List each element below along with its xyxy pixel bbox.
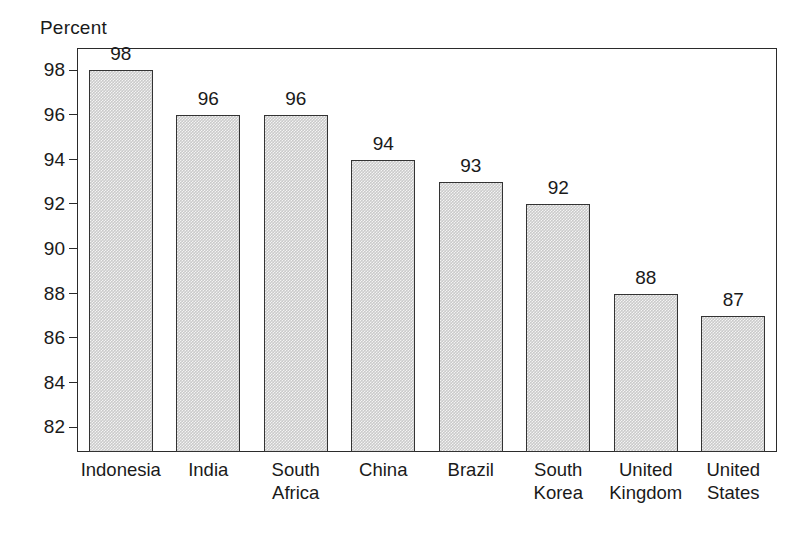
x-axis-category-line: Indonesia xyxy=(77,458,165,481)
bar-value-label: 94 xyxy=(343,134,423,153)
bar xyxy=(351,160,415,452)
bar-value-label: 98 xyxy=(81,44,161,63)
y-axis-tick-label: 94 xyxy=(21,150,65,169)
bars-container: 9896969493928887 xyxy=(77,48,777,452)
y-axis-tick-label: 96 xyxy=(21,105,65,124)
x-axis-category-line: Kingdom xyxy=(602,481,690,504)
x-axis-category-label: SouthAfrica xyxy=(252,458,340,504)
y-axis-tick-label: 98 xyxy=(21,60,65,79)
bar-value-label: 92 xyxy=(518,178,598,197)
bar-value-label: 96 xyxy=(256,89,336,108)
y-axis-tick-label: 86 xyxy=(21,328,65,347)
x-axis-category-label: UnitedStates xyxy=(690,458,778,504)
chart-axis-title: Percent xyxy=(40,17,107,39)
bar-value-label: 93 xyxy=(431,156,511,175)
x-axis-category-line: Africa xyxy=(252,481,340,504)
y-axis-tick-label: 92 xyxy=(21,194,65,213)
y-axis-tick-label: 90 xyxy=(21,239,65,258)
x-axis-category-line: United xyxy=(690,458,778,481)
x-axis-category-label: Indonesia xyxy=(77,458,165,481)
x-axis-category-label: UnitedKingdom xyxy=(602,458,690,504)
x-axis-category-line: South xyxy=(252,458,340,481)
x-axis-category-line: South xyxy=(515,458,603,481)
x-axis-labels: IndonesiaIndiaSouthAfricaChinaBrazilSout… xyxy=(77,458,777,528)
bar xyxy=(614,294,678,452)
x-axis-category-line: United xyxy=(602,458,690,481)
bar xyxy=(176,115,240,452)
x-axis-category-label: Brazil xyxy=(427,458,515,481)
y-axis-tick-label: 88 xyxy=(21,284,65,303)
bar-value-label: 87 xyxy=(693,290,773,309)
x-axis-category-line: China xyxy=(340,458,428,481)
bar-value-label: 96 xyxy=(168,89,248,108)
bar xyxy=(439,182,503,452)
x-axis-category-label: SouthKorea xyxy=(515,458,603,504)
x-axis-category-line: Korea xyxy=(515,481,603,504)
bar-value-label: 88 xyxy=(606,268,686,287)
bar xyxy=(701,316,765,452)
bar xyxy=(526,204,590,452)
y-axis-tick-label: 84 xyxy=(21,373,65,392)
x-axis-category-line: States xyxy=(690,481,778,504)
bar xyxy=(89,70,153,452)
bar-chart: Percent 828486889092949698 9896969493928… xyxy=(0,0,810,533)
x-axis-category-line: India xyxy=(165,458,253,481)
x-axis-category-label: India xyxy=(165,458,253,481)
bar xyxy=(264,115,328,452)
x-axis-category-line: Brazil xyxy=(427,458,515,481)
y-axis-tick-label: 82 xyxy=(21,417,65,436)
x-axis-category-label: China xyxy=(340,458,428,481)
